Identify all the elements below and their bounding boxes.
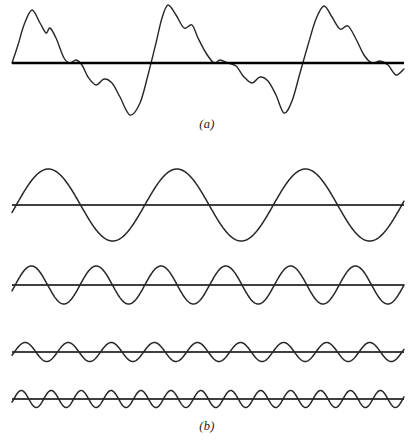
figure-root: (a) (b) [0, 0, 414, 447]
caption-b: (b) [0, 419, 414, 434]
harmonic-3 [12, 343, 404, 362]
harmonic-4 [12, 391, 404, 408]
harmonic-1-fundamental [12, 169, 404, 241]
panel-b-harmonic-components [0, 150, 414, 447]
composite-waveform-curve [12, 5, 404, 115]
caption-a: (a) [0, 117, 414, 132]
harmonic-2 [12, 266, 404, 304]
harmonic-components-plot [0, 150, 414, 447]
